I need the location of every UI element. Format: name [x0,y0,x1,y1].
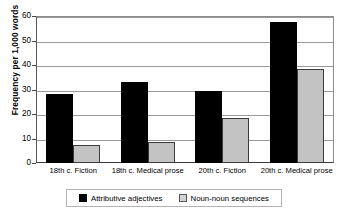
y-tick-label: 50 [5,37,31,45]
bar-chart: Frequency per 1,000 words 0102030405060 … [0,0,345,216]
legend-entry: Attributive adjectives [79,194,163,203]
bar [195,91,222,163]
bar [297,69,324,163]
x-tick-label: 20th c. Medical prose [260,166,335,175]
bar [148,142,175,163]
bar [222,118,249,163]
legend-swatch-icon [179,194,187,202]
y-tick-label: 30 [5,86,31,94]
y-tick-label: 60 [5,12,31,20]
x-tick-label: 20th c. Fiction [185,166,260,175]
y-tick-label: 40 [5,61,31,69]
bar-group [260,16,335,163]
y-tick-label: 10 [5,135,31,143]
bar [46,94,73,163]
legend-label: Noun-noun sequences [191,194,269,203]
x-axis-labels: 18th c. Fiction18th c. Medical prose20th… [36,166,334,175]
y-tick-label: 0 [5,159,31,167]
x-tick-label: 18th c. Medical prose [111,166,186,175]
x-tick-label: 18th c. Fiction [36,166,111,175]
y-tick-label: 20 [5,110,31,118]
legend-label: Attributive adjectives [91,194,163,203]
bar [73,145,100,163]
legend-swatch-icon [79,194,87,202]
bar-group [111,16,186,163]
chart-legend: Attributive adjectivesNoun-noun sequence… [66,189,282,207]
bar-group [36,16,111,163]
bar [270,22,297,163]
bar-group [185,16,260,163]
bar-groups [36,16,334,163]
y-tick-mark [32,163,36,164]
legend-entry: Noun-noun sequences [179,194,269,203]
bar [121,82,148,163]
